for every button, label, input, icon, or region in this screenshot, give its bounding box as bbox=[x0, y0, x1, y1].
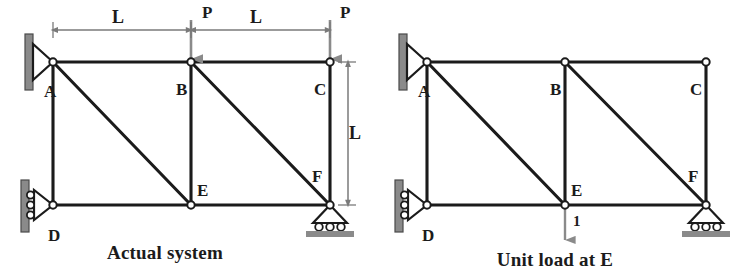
joint-A bbox=[423, 58, 430, 65]
member-A-E bbox=[53, 62, 191, 205]
caption-actual-system: Actual system bbox=[107, 242, 223, 263]
joint-C bbox=[702, 58, 709, 65]
load-P-at-B-label: P bbox=[202, 3, 212, 22]
roller-3 bbox=[713, 223, 721, 231]
joint-label-D: D bbox=[48, 226, 60, 245]
roller-support-F bbox=[306, 205, 354, 237]
panel-unit-load-at-E: 1ABCDEFUnit load at E bbox=[395, 34, 730, 270]
roller-1 bbox=[691, 223, 699, 231]
load-P-at-C-label: P bbox=[340, 3, 350, 22]
joint-E bbox=[187, 201, 194, 208]
truss-figure: PPLLLABCDEFActual system1ABCDEFUnit load… bbox=[0, 0, 747, 278]
roller-2 bbox=[702, 223, 710, 231]
loads-group: PP bbox=[191, 3, 350, 59]
member-A-E bbox=[427, 62, 565, 205]
roller-1 bbox=[315, 223, 323, 231]
joint-B bbox=[187, 58, 194, 65]
roller-1 bbox=[27, 191, 34, 198]
roller-support-F bbox=[682, 205, 730, 237]
joint-F bbox=[326, 201, 333, 208]
dimension-span-A-to-B: L bbox=[53, 7, 191, 38]
ground-bar bbox=[306, 231, 354, 237]
dimension-label-span-A-to-B: L bbox=[112, 7, 124, 27]
roller-1 bbox=[401, 191, 408, 198]
joint-label-F: F bbox=[688, 167, 698, 186]
roller-3 bbox=[401, 211, 408, 218]
roller-2 bbox=[326, 223, 334, 231]
unit-load-at-E-label: 1 bbox=[573, 213, 581, 229]
members-group bbox=[427, 62, 706, 205]
joint-D bbox=[423, 201, 430, 208]
member-B-F bbox=[191, 62, 330, 205]
roller-3 bbox=[337, 223, 345, 231]
unit-load-at-E: 1 bbox=[565, 208, 581, 240]
panels-layer: PPLLLABCDEFActual system1ABCDEFUnit load… bbox=[21, 3, 730, 270]
load-P-at-C: P bbox=[330, 3, 350, 59]
roller-2 bbox=[27, 201, 34, 208]
wall-block bbox=[25, 34, 33, 90]
joint-E bbox=[561, 201, 568, 208]
dimension-label-span-B-to-C: L bbox=[250, 7, 262, 27]
joint-label-C: C bbox=[690, 80, 702, 99]
joint-label-B: B bbox=[550, 80, 561, 99]
joint-C bbox=[326, 58, 333, 65]
ground-bar bbox=[682, 231, 730, 237]
joint-A bbox=[49, 58, 56, 65]
joints-group: ABCDEF bbox=[44, 58, 334, 245]
wall-block bbox=[399, 34, 407, 90]
caption-unit-load-at-E: Unit load at E bbox=[497, 249, 613, 270]
joint-F bbox=[702, 201, 709, 208]
joint-label-D: D bbox=[422, 226, 434, 245]
roller-support-D bbox=[395, 180, 427, 232]
joint-label-C: C bbox=[314, 80, 326, 99]
member-B-F bbox=[565, 62, 706, 205]
roller-2 bbox=[401, 201, 408, 208]
joint-B bbox=[561, 58, 568, 65]
joint-D bbox=[49, 201, 56, 208]
roller-3 bbox=[27, 211, 34, 218]
joint-label-A: A bbox=[44, 82, 57, 101]
panel-actual-system: PPLLLABCDEFActual system bbox=[21, 3, 361, 263]
joint-label-F: F bbox=[312, 167, 322, 186]
joint-label-E: E bbox=[197, 181, 208, 200]
loads-group: 1 bbox=[565, 208, 581, 240]
dimension-height-C-to-F: L bbox=[338, 62, 361, 205]
dimension-label-height-C-to-F: L bbox=[349, 123, 361, 143]
joint-label-A: A bbox=[418, 82, 431, 101]
joint-label-B: B bbox=[176, 80, 187, 99]
members-group bbox=[53, 62, 330, 205]
diagram-canvas: PPLLLABCDEFActual system1ABCDEFUnit load… bbox=[0, 0, 747, 278]
joint-label-E: E bbox=[571, 181, 582, 200]
roller-support-D bbox=[21, 180, 53, 232]
load-P-at-B: P bbox=[191, 3, 212, 59]
